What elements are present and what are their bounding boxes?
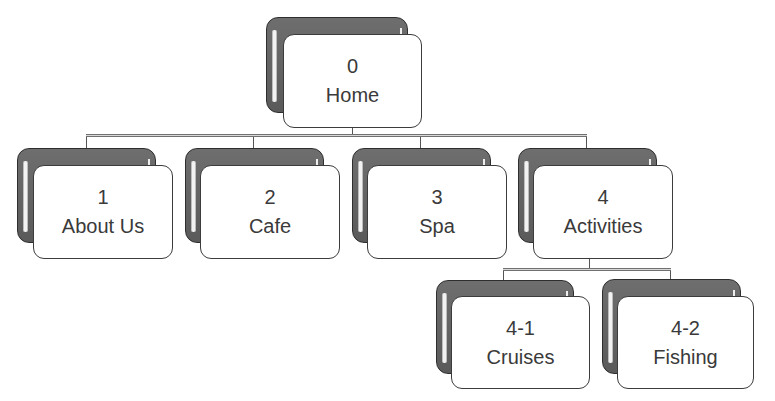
card-highlight — [23, 161, 28, 232]
node-label: Activities — [564, 212, 643, 241]
card-highlight — [524, 161, 529, 232]
node-cruises-card: 4-1 Cruises — [451, 296, 590, 389]
card-highlight — [272, 30, 277, 102]
site-map-diagram: 0 Home 1 About Us 2 Cafe 3 — [0, 0, 775, 401]
node-about-us-card: 1 About Us — [33, 165, 173, 259]
connector-to-activities — [586, 137, 587, 148]
node-label: Fishing — [653, 343, 717, 372]
node-number: 3 — [431, 183, 442, 212]
node-number: 0 — [347, 52, 358, 81]
connector-to-spa — [420, 137, 421, 148]
node-number: 2 — [264, 183, 275, 212]
node-home-card: 0 Home — [283, 34, 422, 128]
card-highlight — [442, 293, 447, 363]
node-label: Cruises — [487, 343, 555, 372]
node-spa-card: 3 Spa — [367, 165, 507, 259]
node-cafe-card: 2 Cafe — [200, 165, 340, 259]
node-label: Home — [326, 81, 379, 110]
card-highlight — [608, 292, 613, 363]
node-number: 4 — [597, 183, 608, 212]
connector-level2-bar — [503, 268, 671, 271]
node-number: 1 — [97, 183, 108, 212]
card-highlight — [358, 161, 363, 232]
node-label: About Us — [62, 212, 144, 241]
connector-to-about — [86, 137, 87, 148]
node-label: Spa — [419, 212, 455, 241]
node-number: 4-2 — [671, 314, 700, 343]
card-highlight — [191, 161, 196, 232]
connector-to-cafe — [253, 137, 254, 148]
connector-to-cruises — [503, 271, 504, 280]
node-activities-card: 4 Activities — [533, 165, 673, 259]
node-label: Cafe — [249, 212, 291, 241]
node-number: 4-1 — [506, 314, 535, 343]
connector-level1-bar — [86, 134, 587, 137]
node-fishing-card: 4-2 Fishing — [617, 296, 754, 389]
